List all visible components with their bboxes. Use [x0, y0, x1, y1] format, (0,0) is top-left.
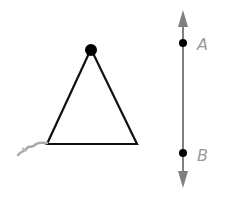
triangle	[47, 49, 137, 144]
triangle-apex-point	[85, 44, 97, 56]
arrow-up-icon	[178, 10, 188, 27]
point-a	[179, 39, 187, 47]
label-b: B	[197, 146, 208, 165]
arrow-down-icon	[178, 171, 188, 188]
label-a: A	[196, 35, 208, 54]
diagram-canvas: A B	[0, 0, 225, 198]
point-b	[179, 149, 187, 157]
